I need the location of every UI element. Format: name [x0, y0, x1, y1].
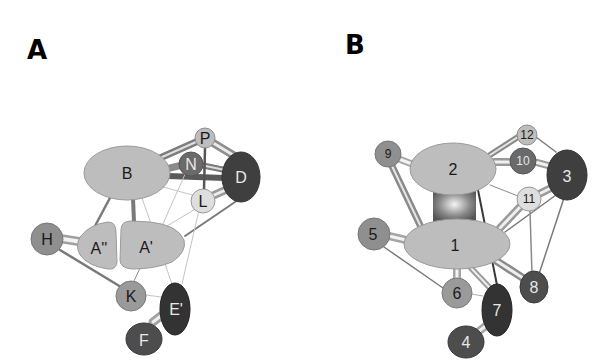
node-a-double-prime[interactable]: A'': [78, 222, 118, 269]
node-1-label: 1: [451, 237, 460, 254]
edge-b-d: [168, 176, 225, 178]
node-l[interactable]: L: [191, 189, 215, 213]
node-h[interactable]: H: [31, 223, 63, 255]
node-a-double-prime-label: A'': [91, 240, 108, 257]
panel-b-nodes: 2 1 9 12 10 3: [358, 125, 587, 358]
node-10[interactable]: 10: [510, 148, 536, 174]
edge-12-3: [536, 137, 556, 152]
node-9[interactable]: 9: [375, 141, 401, 167]
node-7-label: 7: [493, 302, 502, 319]
node-12[interactable]: 12: [517, 125, 537, 145]
node-a-prime[interactable]: A': [120, 221, 185, 269]
node-2[interactable]: 2: [410, 143, 496, 195]
node-10-label: 10: [516, 154, 530, 168]
node-f-label: F: [139, 332, 149, 349]
node-8-label: 8: [530, 279, 539, 296]
node-1[interactable]: 1: [404, 219, 510, 269]
node-5[interactable]: 5: [358, 218, 390, 250]
node-a-prime-label: A': [139, 239, 153, 256]
node-7[interactable]: 7: [482, 284, 512, 336]
edge-11-8: [530, 211, 532, 274]
edge-1-7-highlight: [471, 268, 489, 287]
edge-11-1-highlight: [500, 207, 520, 228]
edge-1-8-highlight: [495, 260, 523, 278]
node-9-label: 9: [385, 147, 392, 161]
node-d[interactable]: D: [222, 152, 260, 202]
node-e-prime[interactable]: E': [160, 283, 190, 335]
node-5-label: 5: [369, 226, 378, 243]
node-2-label: 2: [449, 161, 458, 178]
node-n[interactable]: N: [179, 152, 203, 176]
node-b[interactable]: B: [84, 146, 170, 200]
node-l-label: L: [199, 193, 208, 210]
node-4[interactable]: 4: [448, 326, 484, 358]
node-6-label: 6: [453, 285, 462, 302]
edge-b-l: [163, 187, 196, 196]
edge-6-7: [471, 294, 483, 296]
panel-a: A: [27, 35, 260, 355]
panel-b: B: [345, 30, 587, 358]
panel-a-label: A: [27, 35, 47, 65]
panel-b-label: B: [345, 30, 365, 60]
node-f[interactable]: F: [126, 323, 162, 355]
edge-k-e: [146, 295, 161, 297]
node-n-label: N: [185, 156, 197, 173]
node-k[interactable]: K: [116, 281, 146, 311]
node-12-label: 12: [520, 128, 534, 142]
node-4-label: 4: [462, 334, 471, 351]
node-b-label: B: [122, 165, 133, 182]
edge-b-a1: [133, 198, 134, 222]
node-k-label: K: [126, 288, 137, 305]
edge-a1-l: [167, 208, 197, 226]
node-e-prime-label: E': [169, 301, 183, 318]
node-3-label: 3: [563, 168, 572, 185]
node-11[interactable]: 11: [517, 187, 541, 211]
edge-3-8: [539, 198, 564, 274]
node-p-label: P: [200, 130, 211, 147]
node-8[interactable]: 8: [520, 271, 548, 303]
node-11-label: 11: [523, 192, 536, 206]
node-d-label: D: [235, 169, 247, 186]
diagram-canvas: A: [0, 0, 607, 364]
edge-b-a2: [95, 196, 111, 226]
node-p[interactable]: P: [195, 128, 215, 148]
edge-p-l: [204, 148, 205, 190]
edge-2-11: [490, 185, 518, 196]
node-6[interactable]: 6: [442, 278, 472, 308]
node-3[interactable]: 3: [547, 150, 587, 200]
node-h-label: H: [41, 231, 53, 248]
